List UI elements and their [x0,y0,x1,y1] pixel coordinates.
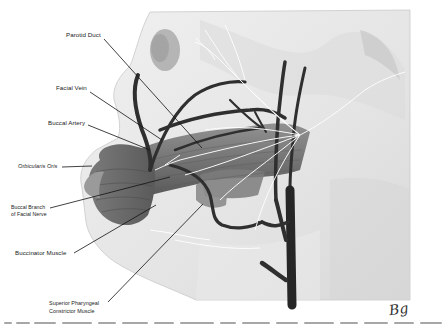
label-superior-pharyngeal-line1: Superior Pharyngeal [49,300,99,307]
label-facial-vein: Facial Vein [56,84,87,91]
artist-signature: Bg [388,300,409,319]
label-buccal-branch-line2: of Facial Nerve [11,211,47,218]
anatomy-illustration [0,0,447,327]
caption-cutoff-text [0,318,447,327]
anatomy-figure: Parotid Duct Facial Vein Buccal Artery O… [0,0,447,327]
label-buccal-branch-line1: Buccal Branch [11,204,45,211]
label-orbicularis-oris: Orbicularis Oris [18,163,57,170]
label-buccinator-muscle: Buccinator Muscle [15,249,66,256]
label-parotid-duct: Parotid Duct [66,31,101,38]
label-superior-pharyngeal-line2: Constrictor Muscle [49,308,95,315]
label-buccal-artery: Buccal Artery [48,119,85,126]
